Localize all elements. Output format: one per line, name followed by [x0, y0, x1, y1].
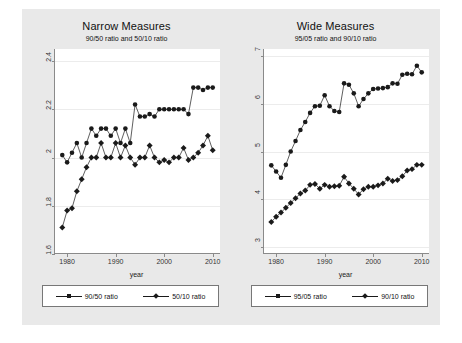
legend-marker-circle-icon: [56, 296, 82, 297]
data-point-circle: [318, 103, 323, 108]
panel-subtitle-wide: 95/05 ratio and 90/10 ratio: [231, 35, 440, 42]
data-point-diamond: [118, 155, 124, 161]
data-point-diamond: [98, 140, 104, 146]
data-point-circle: [298, 128, 303, 133]
series-layer: [55, 49, 220, 254]
data-point-circle: [371, 87, 376, 92]
gridline: [55, 254, 220, 255]
data-point-diamond: [200, 143, 206, 149]
data-point-circle: [142, 114, 147, 119]
data-point-diamond: [59, 225, 65, 231]
y-tick-label: 5: [254, 143, 261, 147]
data-point-circle: [157, 107, 162, 112]
panel-title-wide: Wide Measures: [231, 20, 440, 32]
legend-item-95-05-ratio[interactable]: 95/05 ratio: [265, 293, 327, 300]
data-point-circle: [191, 85, 196, 90]
x-tick-label: 1980: [59, 258, 75, 265]
data-point-circle: [347, 82, 352, 87]
legend-marker-diamond-icon: [143, 296, 169, 297]
data-point-circle: [342, 81, 347, 86]
legend-marker-circle-icon: [265, 296, 291, 297]
data-point-diamond: [370, 184, 376, 190]
data-point-circle: [104, 126, 109, 131]
series-line: [271, 165, 421, 222]
x-tick-label: 2010: [414, 258, 430, 265]
x-tick-mark: [422, 254, 423, 257]
y-tick-label: 2.4: [45, 52, 52, 62]
legend-label: 90/50 ratio: [85, 293, 118, 300]
series-line: [62, 88, 212, 163]
data-point-diamond: [176, 155, 182, 161]
y-tick-label: 1.6: [45, 245, 52, 255]
y-tick-label: 1.8: [45, 197, 52, 207]
data-point-circle: [109, 134, 114, 139]
data-point-circle: [356, 104, 361, 109]
x-axis-label-wide: year: [263, 271, 428, 278]
data-point-circle: [274, 169, 279, 174]
data-point-circle: [327, 104, 332, 109]
x-tick-mark: [164, 254, 165, 257]
x-tick-mark: [116, 254, 117, 257]
data-point-circle: [210, 85, 215, 90]
data-point-diamond: [84, 164, 90, 170]
data-point-circle: [405, 71, 410, 76]
data-point-diamond: [419, 162, 425, 168]
legend-item-90-10-ratio[interactable]: 90/10 ratio: [352, 293, 414, 300]
x-tick-label: 1990: [108, 258, 124, 265]
data-point-circle: [376, 86, 381, 91]
y-tick-label: 2.2: [45, 100, 52, 110]
data-point-circle: [172, 107, 177, 112]
data-point-diamond: [122, 143, 128, 149]
series-line: [62, 136, 212, 228]
data-point-circle: [410, 72, 415, 77]
data-point-diamond: [142, 155, 148, 161]
data-point-circle: [332, 109, 337, 114]
x-tick-mark: [67, 254, 68, 257]
data-point-diamond: [341, 174, 347, 180]
data-point-circle: [94, 134, 99, 139]
y-tick-label: 2: [45, 149, 52, 153]
y-tick-label: 3: [254, 238, 261, 242]
data-point-circle: [400, 72, 405, 77]
x-tick-mark: [325, 254, 326, 257]
data-point-circle: [147, 112, 152, 117]
data-point-circle: [181, 107, 186, 112]
data-point-circle: [206, 85, 211, 90]
data-point-circle: [75, 141, 80, 146]
panel-wide-measures: Wide Measures 95/05 ratio and 90/10 rati…: [231, 9, 440, 325]
plot-area-narrow: 1.61.822.22.41980199020002010: [54, 49, 220, 254]
series-layer: [264, 49, 429, 254]
data-point-diamond: [331, 183, 337, 189]
data-point-circle: [196, 85, 201, 90]
panel-title-narrow: Narrow Measures: [22, 20, 231, 32]
legend-label: 95/05 ratio: [294, 293, 327, 300]
data-point-diamond: [205, 133, 211, 139]
data-point-circle: [337, 110, 342, 115]
x-tick-label: 2010: [205, 258, 221, 265]
data-point-circle: [351, 91, 356, 96]
data-point-circle: [313, 104, 318, 109]
plot-area-wide: 345671980199020002010: [263, 49, 429, 254]
data-point-circle: [167, 107, 172, 112]
data-point-circle: [65, 160, 70, 165]
y-tick-label: 4: [254, 190, 261, 194]
data-point-diamond: [132, 162, 138, 168]
x-tick-label: 1980: [268, 258, 284, 265]
data-point-circle: [284, 163, 289, 168]
data-point-circle: [84, 141, 89, 146]
data-point-diamond: [113, 140, 119, 146]
data-point-circle: [128, 141, 133, 146]
data-point-circle: [113, 126, 118, 131]
data-point-circle: [133, 102, 138, 107]
data-point-diamond: [64, 208, 70, 214]
data-point-diamond: [127, 155, 133, 161]
data-point-circle: [366, 91, 371, 96]
data-point-diamond: [69, 205, 75, 211]
data-point-circle: [118, 141, 123, 146]
legend-item-50-10-ratio[interactable]: 50/10 ratio: [143, 293, 205, 300]
panel-narrow-measures: Narrow Measures 90/50 ratio and 50/10 ra…: [22, 9, 231, 325]
x-tick-label: 2000: [156, 258, 172, 265]
legend-wide: 95/05 ratio 90/10 ratio: [251, 285, 428, 307]
legend-item-90-50-ratio[interactable]: 90/50 ratio: [56, 293, 118, 300]
x-tick-mark: [213, 254, 214, 257]
